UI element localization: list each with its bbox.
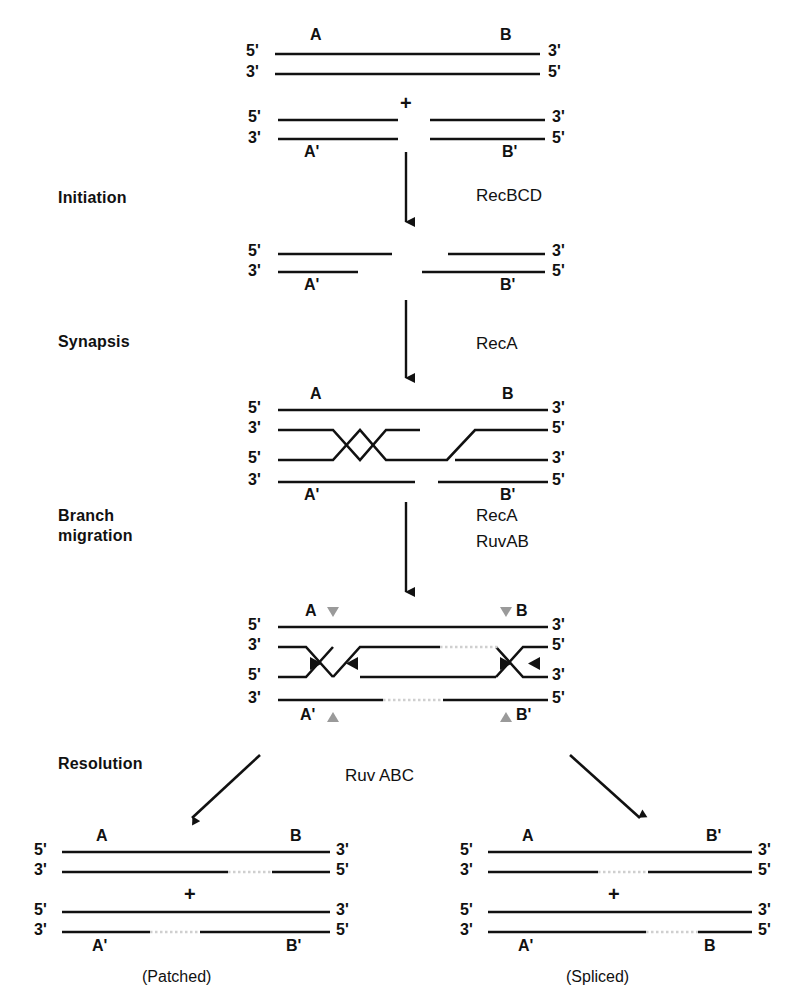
- stage-label-initiation: Initiation: [58, 188, 127, 208]
- end-tag-5p-syn-r2: 5': [552, 419, 565, 437]
- segment-label-bprime-hj: B': [516, 706, 531, 724]
- plus-sign-patched: +: [184, 884, 196, 904]
- end-tag-5p-syn-l3: 5': [248, 449, 261, 467]
- end-tag-3p-syn-l4: 3': [248, 471, 261, 489]
- end-tag-5p-spliced-bl: 5': [460, 901, 473, 919]
- end-tag-3p-top-left: 3': [246, 63, 259, 81]
- segment-label-aprime-parental: A': [304, 143, 319, 161]
- end-tag-5p-hj-r4: 5': [552, 689, 565, 707]
- end-tag-3p-hj-l4: 3': [248, 689, 261, 707]
- segment-label-a-parental: A: [310, 26, 322, 44]
- segment-label-bprime-synapsis: B': [500, 486, 515, 504]
- end-tag-3p-spliced-br: 3': [758, 901, 771, 919]
- initiation-product-strands: [278, 254, 545, 272]
- end-tag-5p-spliced-tr: 5': [758, 861, 771, 879]
- segment-label-b-spliced: B: [704, 937, 716, 955]
- stage-label-resolution: Resolution: [58, 754, 143, 774]
- segment-label-aprime-spliced: A': [518, 937, 533, 955]
- migration-marker-top-right: [500, 607, 512, 617]
- end-tag-5p-init-right: 5': [552, 262, 565, 280]
- end-tag-3p-spliced-bl: 3': [460, 921, 473, 939]
- segment-label-a-synapsis: A: [310, 385, 322, 403]
- end-tag-3p-patched-br: 3': [336, 901, 349, 919]
- migration-arrow-left-2: [528, 657, 540, 670]
- synapsis-strand-3-crossed-to-top: [418, 430, 548, 460]
- segment-label-aprime-hj: A': [300, 706, 315, 724]
- segment-label-aprime-synapsis: A': [304, 486, 319, 504]
- end-tag-3p-init-left: 3': [248, 262, 261, 280]
- end-tag-5p-patched-tr: 5': [336, 861, 349, 879]
- plus-sign-substrate: +: [400, 93, 412, 113]
- end-tag-3p-bottom-right: 3': [552, 108, 565, 126]
- segment-label-b-parental: B: [500, 26, 512, 44]
- end-tag-3p-syn-l2: 3': [248, 419, 261, 437]
- end-tag-3p-bottom-left: 3': [248, 129, 261, 147]
- segment-label-a-patched: A: [96, 827, 108, 845]
- end-tag-3p-init-right: 3': [552, 242, 565, 260]
- arrow-resolution-left: [192, 755, 260, 818]
- parental-duplex-top: [275, 54, 540, 74]
- end-tag-3p-top-right: 3': [548, 42, 561, 60]
- segment-label-b-synapsis: B: [502, 385, 514, 403]
- parental-duplex-bottom: [278, 120, 545, 139]
- end-tag-5p-init-left: 5': [248, 242, 261, 260]
- caption-spliced: (Spliced): [566, 968, 629, 986]
- segment-label-bprime-init: B': [500, 276, 515, 294]
- end-tag-3p-hj-r3: 3': [552, 666, 565, 684]
- end-tag-5p-patched-br: 5': [336, 921, 349, 939]
- dna-strand-canvas: [0, 0, 806, 1008]
- end-tag-5p-syn-r4: 5': [552, 471, 565, 489]
- segment-label-aprime-patched: A': [92, 937, 107, 955]
- segment-label-a-hj: A: [305, 602, 317, 620]
- end-tag-3p-syn-r3: 3': [552, 449, 565, 467]
- patched-heteroduplex-dashes: [150, 872, 272, 932]
- end-tag-3p-hj-r1: 3': [552, 616, 565, 634]
- segment-label-aprime-init: A': [304, 276, 319, 294]
- migration-marker-bottom-left: [327, 712, 339, 722]
- segment-label-b-patched: B: [290, 827, 302, 845]
- holliday-heteroduplex-dashes: [383, 647, 498, 700]
- end-tag-5p-hj-l1: 5': [248, 616, 261, 634]
- synapsis-strand-2-left: [278, 430, 420, 460]
- end-tag-5p-patched-tl: 5': [34, 841, 47, 859]
- segment-label-bprime-parental: B': [502, 143, 517, 161]
- end-tag-5p-bottom-right: 5': [552, 129, 565, 147]
- caption-patched: (Patched): [142, 968, 211, 986]
- segment-label-bprime-spliced: B': [706, 827, 721, 845]
- enzyme-label-ruvabc: Ruv ABC: [345, 766, 414, 786]
- migration-marker-top-left: [327, 607, 339, 617]
- enzyme-label-recbcd: RecBCD: [476, 186, 542, 206]
- end-tag-5p-hj-r2: 5': [552, 636, 565, 654]
- end-tag-3p-patched-tl: 3': [34, 861, 47, 879]
- stage-label-branch-migration: Branch migration: [58, 506, 133, 546]
- end-tag-5p-bottom-left: 5': [248, 108, 261, 126]
- enzyme-label-ruvab: RuvAB: [476, 532, 529, 552]
- end-tag-5p-patched-bl: 5': [34, 901, 47, 919]
- patched-product-strands: [62, 852, 330, 932]
- arrow-resolution-right: [570, 755, 640, 818]
- end-tag-5p-spliced-tl: 5': [460, 841, 473, 859]
- segment-label-a-spliced: A: [522, 827, 534, 845]
- hj-strand-2-left-down: [278, 647, 333, 677]
- enzyme-label-reca: RecA: [476, 334, 518, 354]
- end-tag-3p-hj-l2: 3': [248, 636, 261, 654]
- end-tag-5p-top-left: 5': [246, 42, 259, 60]
- end-tag-5p-syn-l1: 5': [248, 399, 261, 417]
- hj-strand-2b-down: [468, 647, 522, 677]
- end-tag-5p-spliced-br: 5': [758, 921, 771, 939]
- joint-molecule-strands: [278, 410, 548, 482]
- end-tag-3p-patched-bl: 3': [34, 921, 47, 939]
- end-tag-5p-top-right: 5': [548, 63, 561, 81]
- plus-sign-spliced: +: [608, 884, 620, 904]
- segment-label-bprime-patched: B': [286, 937, 301, 955]
- hj-strand-3-left-up: [278, 647, 333, 677]
- end-tag-5p-hj-l3: 5': [248, 666, 261, 684]
- migration-marker-bottom-right: [500, 712, 512, 722]
- end-tag-3p-patched-tr: 3': [336, 841, 349, 859]
- end-tag-3p-spliced-tr: 3': [758, 841, 771, 859]
- stage-label-synapsis: Synapsis: [58, 332, 130, 352]
- segment-label-b-hj: B: [516, 602, 528, 620]
- synapsis-strand-3-left: [278, 430, 418, 460]
- spliced-product-strands: [488, 852, 752, 932]
- recombination-pathway-figure: Initiation Synapsis Branch migration Res…: [0, 0, 806, 1008]
